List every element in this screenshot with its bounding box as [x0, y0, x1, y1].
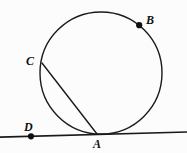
point-label-d: D: [24, 121, 33, 133]
circle-shape: [40, 12, 162, 134]
point-label-a: A: [93, 138, 101, 150]
point-label-b: B: [146, 14, 154, 26]
chord-c-a: [42, 63, 97, 134]
point-label-c: C: [26, 55, 34, 67]
point-b-dot: [136, 22, 142, 28]
point-d-dot: [28, 133, 34, 139]
geometry-figure: A B C D: [0, 0, 187, 153]
